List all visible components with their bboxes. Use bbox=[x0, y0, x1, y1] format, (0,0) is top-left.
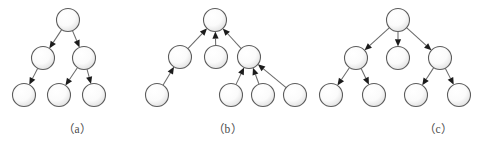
caption-panel-a: （a） bbox=[63, 120, 91, 136]
graph-edge bbox=[370, 28, 390, 46]
graph-edge bbox=[87, 69, 89, 77]
node-c-mid-1 bbox=[345, 47, 368, 70]
graph-edge-arrowhead bbox=[212, 31, 218, 38]
graph-edge bbox=[188, 34, 202, 49]
node-c-leaf-1 bbox=[320, 84, 343, 107]
graph-edge bbox=[228, 34, 242, 49]
graph-edge-arrowhead bbox=[29, 77, 35, 85]
graph-edge-arrowhead bbox=[223, 28, 230, 35]
node-a-leaf-2 bbox=[48, 84, 71, 107]
graph-edge-arrowhead bbox=[49, 41, 56, 49]
node-b-leaf-0 bbox=[146, 84, 169, 107]
edges-layer bbox=[29, 28, 453, 88]
node-a-leaf-1 bbox=[13, 84, 36, 107]
graph-edge bbox=[69, 68, 77, 80]
graph-edge-arrowhead bbox=[365, 43, 372, 50]
graph-edge-arrowhead bbox=[422, 78, 429, 86]
node-a-left bbox=[32, 47, 55, 70]
graph-edge bbox=[426, 68, 434, 80]
node-c-mid-3 bbox=[429, 47, 452, 70]
graph-edge-arrowhead bbox=[258, 64, 266, 71]
graph-edge-arrowhead bbox=[168, 67, 174, 75]
graph-edge-arrowhead bbox=[74, 40, 80, 48]
graph-edge-arrowhead bbox=[395, 39, 401, 46]
node-c-leaf-4 bbox=[448, 84, 471, 107]
node-a-right bbox=[73, 47, 96, 70]
caption-panel-c: （c） bbox=[424, 120, 452, 136]
graph-edge bbox=[341, 68, 349, 80]
node-b-mid-1 bbox=[169, 46, 192, 69]
node-b-leaf-2 bbox=[252, 84, 275, 107]
node-c-root bbox=[387, 9, 410, 32]
graph-edge bbox=[445, 68, 450, 78]
node-b-mid-2 bbox=[205, 46, 228, 69]
node-b-root bbox=[204, 9, 227, 32]
node-b-mid-3 bbox=[238, 46, 261, 69]
graph-edge bbox=[255, 75, 259, 85]
nodes-layer bbox=[13, 9, 471, 107]
graph-edge-arrowhead bbox=[86, 76, 92, 84]
graph-edge bbox=[53, 30, 61, 43]
graph-edge bbox=[72, 31, 76, 41]
graph-edge-arrowhead bbox=[424, 43, 431, 50]
graph-edge-arrowhead bbox=[200, 28, 207, 35]
graph-edge bbox=[33, 68, 38, 78]
node-c-leaf-3 bbox=[405, 84, 428, 107]
graph-edge bbox=[236, 74, 241, 85]
graph-edge bbox=[263, 69, 286, 88]
graph-edge-arrowhead bbox=[337, 78, 344, 86]
node-c-mid-2 bbox=[387, 47, 410, 70]
node-a-leaf-3 bbox=[83, 84, 106, 107]
graph-edge bbox=[407, 28, 427, 46]
graph-edge bbox=[361, 68, 366, 78]
figure-three-directed-graphs: （a） （b） （c） bbox=[0, 0, 490, 148]
graph-edge bbox=[163, 73, 170, 85]
graph-edge-arrowhead bbox=[253, 68, 259, 76]
node-c-leaf-2 bbox=[363, 84, 386, 107]
node-b-leaf-1 bbox=[220, 84, 243, 107]
node-a-root bbox=[57, 9, 80, 32]
graph-edge-arrowhead bbox=[448, 77, 454, 85]
caption-panel-b: （b） bbox=[213, 120, 242, 136]
graph-edge-arrowhead bbox=[363, 77, 369, 85]
node-b-leaf-3 bbox=[284, 84, 307, 107]
graph-edge-arrowhead bbox=[238, 67, 244, 75]
graph-edge-arrowhead bbox=[65, 78, 72, 86]
